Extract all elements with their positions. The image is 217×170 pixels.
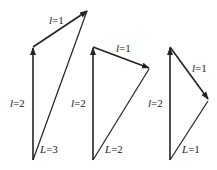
- vector-L: [33, 11, 87, 160]
- vector-addition-diagrams: l=2 l=1 L=3 l=2 l=1 L=2 l=2 l=1 L=1: [0, 0, 217, 170]
- label-l1: l=1: [49, 14, 64, 26]
- label-L: L=3: [39, 143, 58, 155]
- diagram-l1: l=2 l=1 L=1: [148, 47, 208, 160]
- diagram-l3: l=2 l=1 L=3: [10, 11, 87, 160]
- diagram-l2: l=2 l=1 L=2: [71, 42, 149, 160]
- label-l2: l=2: [10, 97, 25, 109]
- label-l1: l=1: [192, 62, 207, 74]
- label-l2: l=2: [71, 97, 86, 109]
- label-L: L=1: [181, 143, 200, 155]
- label-L: L=2: [104, 143, 123, 155]
- label-l2: l=2: [148, 97, 163, 109]
- label-l1: l=1: [116, 42, 131, 54]
